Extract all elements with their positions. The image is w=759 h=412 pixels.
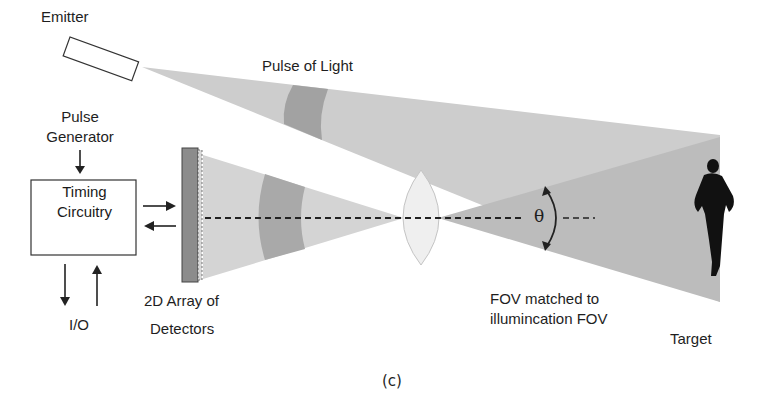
theta-label: θ <box>534 207 544 225</box>
from-detector-arrowhead <box>144 221 154 231</box>
pulse-of-light-label: Pulse of Light <box>262 57 353 75</box>
figure-caption: (c) <box>382 372 402 390</box>
timing-circuitry-label: Timing Circuitry <box>33 182 136 222</box>
output-arrowhead <box>60 297 70 306</box>
pulse-generator-label-line2: Generator <box>30 128 130 146</box>
detectors-label-line1: 2D Array of <box>144 292 219 310</box>
pulse-generator-arrowhead <box>75 166 85 174</box>
emitter-label: Emitter <box>41 8 89 26</box>
timing-label-line2: Circuitry <box>33 202 136 222</box>
detector-cone <box>203 155 404 279</box>
emitter-box <box>63 37 138 81</box>
input-arrowhead <box>92 265 102 274</box>
timing-label-line1: Timing <box>33 182 136 202</box>
io-label: I/O <box>69 316 89 334</box>
detector-array <box>182 148 198 282</box>
to-detector-arrowhead <box>166 201 176 211</box>
detectors-label-line2: Detectors <box>150 320 214 338</box>
fov-label-line2: illumincation FOV <box>490 310 608 328</box>
fov-label-line1: FOV matched to <box>490 290 599 308</box>
detector-pixels <box>198 150 202 280</box>
pulse-generator-label-line1: Pulse <box>40 108 120 126</box>
target-label: Target <box>670 330 712 348</box>
